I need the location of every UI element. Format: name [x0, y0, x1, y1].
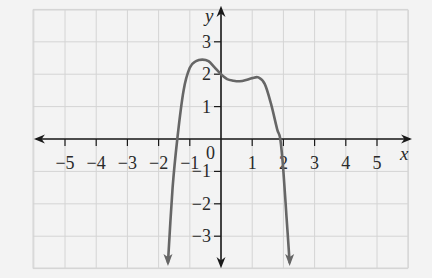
y-axis-label: y [203, 5, 214, 26]
y-tick-label: 1 [202, 97, 211, 117]
x-tick-label: 4 [341, 153, 350, 173]
x-tick-label: −3 [118, 153, 137, 173]
axes [36, 8, 410, 266]
x-tick-label: −4 [87, 153, 106, 173]
y-tick-label: 2 [202, 64, 211, 84]
x-tick-label: 3 [310, 153, 319, 173]
x-tick-label: −2 [149, 153, 168, 173]
x-tick-label: 1 [248, 153, 257, 173]
y-tick-label: −3 [192, 226, 211, 246]
graph-plot: −5−4−3−2−112345−3−2−11230 xy [0, 0, 432, 278]
y-tick-label: −2 [192, 194, 211, 214]
x-axis-label: x [399, 143, 409, 164]
y-tick-label: −1 [192, 161, 211, 181]
y-tick-label: 3 [202, 32, 211, 52]
x-tick-label: −5 [55, 153, 74, 173]
axis-labels: xy [203, 5, 409, 164]
origin-label: 0 [206, 143, 215, 163]
x-tick-label: 5 [373, 153, 382, 173]
